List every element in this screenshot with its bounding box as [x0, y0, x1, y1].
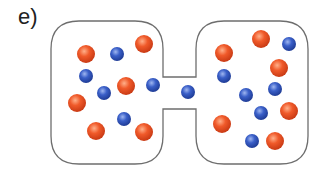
blue-particle	[110, 47, 124, 61]
orange-particle	[135, 123, 153, 141]
blue-particle	[117, 112, 131, 126]
orange-particle	[87, 122, 105, 140]
blue-particle	[217, 69, 231, 83]
orange-particle	[252, 30, 270, 48]
orange-particle	[270, 59, 288, 77]
orange-particle	[68, 94, 86, 112]
orange-particle	[266, 132, 284, 150]
blue-particle	[79, 69, 93, 83]
blue-particles	[79, 37, 296, 148]
orange-particle	[215, 44, 233, 62]
orange-particle	[280, 102, 298, 120]
blue-particle	[268, 82, 282, 96]
blue-particle	[245, 134, 259, 148]
blue-particle	[146, 78, 160, 92]
blue-particle	[97, 86, 111, 100]
orange-particle	[117, 77, 135, 95]
two-chamber-diagram	[0, 0, 324, 175]
orange-particle	[135, 35, 153, 53]
blue-particle	[282, 37, 296, 51]
orange-particle	[77, 45, 95, 63]
blue-particle	[239, 88, 253, 102]
orange-particle	[213, 115, 231, 133]
blue-particle	[254, 106, 268, 120]
blue-particle	[181, 85, 195, 99]
